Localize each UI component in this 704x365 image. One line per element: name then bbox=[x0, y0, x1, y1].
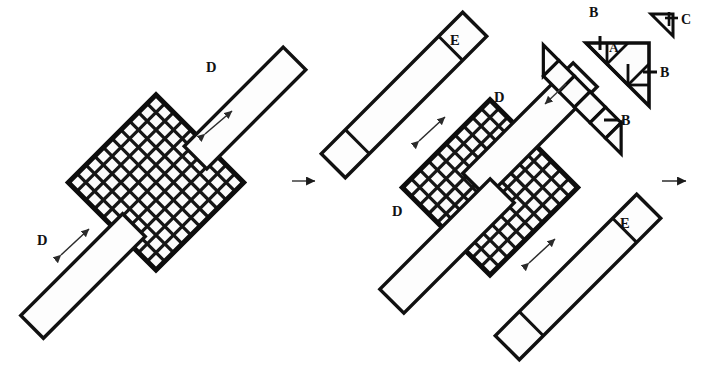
figure-canvas: D D D D bbox=[0, 0, 704, 365]
bar-label-E-upper: E bbox=[450, 32, 460, 48]
bar-label-D-right-lower: D bbox=[392, 203, 402, 219]
tick-label-B-right: B bbox=[660, 65, 669, 80]
dissection-diagram-svg: D D D D bbox=[0, 0, 704, 365]
tick-label-B-top: B bbox=[589, 5, 598, 20]
piece-A-label: A bbox=[609, 40, 619, 55]
piece-C-label: C bbox=[681, 12, 691, 27]
bar-label-D-upper: D bbox=[206, 59, 216, 75]
bar-label-D-right-upper: D bbox=[494, 89, 504, 105]
tick-label-B-strip: B bbox=[621, 113, 630, 128]
bar-label-E-lower: E bbox=[620, 215, 630, 231]
bar-label-D-lower: D bbox=[37, 232, 47, 248]
